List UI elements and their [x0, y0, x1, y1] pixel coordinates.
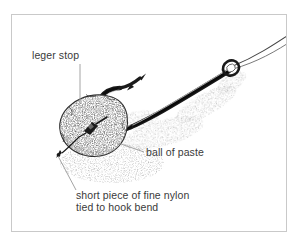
fishing-line — [233, 30, 296, 69]
label-nylon-line-1: short piece of fine nylon — [76, 190, 189, 202]
label-nylon-line-2: tied to hook bend — [76, 202, 189, 214]
label-nylon-caption: short piece of fine nylon tied to hook b… — [76, 190, 189, 213]
label-ball-of-paste: ball of paste — [146, 147, 204, 159]
hook-point — [120, 74, 146, 91]
bottom-caption-clipped — [13, 241, 283, 250]
figure-root: leger stop ball of paste short piece of … — [0, 0, 298, 250]
label-leger-stop: leger stop — [32, 50, 79, 62]
